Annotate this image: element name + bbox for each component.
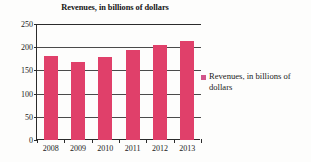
y-axis-tick-label: 100 bbox=[21, 89, 33, 98]
x-axis-tick-label: 2008 bbox=[43, 144, 59, 153]
x-tick-mark bbox=[146, 139, 147, 143]
x-tick-mark bbox=[64, 139, 65, 143]
x-tick-mark bbox=[174, 139, 175, 143]
x-axis-tick-label: 2012 bbox=[152, 144, 168, 153]
plot-area: 050100150200250 200820092010201120122013 bbox=[36, 24, 200, 140]
y-axis-tick-label: 200 bbox=[21, 43, 33, 52]
x-axis-tick-label: 2010 bbox=[97, 144, 113, 153]
bar-chart-figure: Revenues, in billions of dollars 0501001… bbox=[0, 0, 311, 162]
bars-group bbox=[37, 24, 201, 140]
bar-2011 bbox=[126, 50, 140, 140]
y-axis-tick-label: 0 bbox=[29, 136, 33, 145]
x-tick-mark bbox=[37, 139, 38, 143]
legend-color-swatch bbox=[201, 75, 206, 80]
bar-2009 bbox=[71, 62, 85, 140]
x-axis-tick-label: 2011 bbox=[125, 144, 141, 153]
chart-legend: Revenues, in billions of dollars bbox=[201, 71, 309, 93]
x-axis-tick-label: 2009 bbox=[70, 144, 86, 153]
bar-2012 bbox=[153, 45, 167, 140]
y-axis-tick-label: 50 bbox=[25, 112, 33, 121]
x-tick-mark bbox=[92, 139, 93, 143]
legend-entry-label: Revenues, in billions of dollars bbox=[209, 71, 304, 93]
y-axis-tick-label: 150 bbox=[21, 66, 33, 75]
bar-2008 bbox=[44, 56, 58, 140]
y-axis-tick-label: 250 bbox=[21, 20, 33, 29]
x-tick-mark bbox=[119, 139, 120, 143]
chart-title: Revenues, in billions of dollars bbox=[30, 3, 200, 12]
x-tick-mark bbox=[201, 139, 202, 143]
bar-2013 bbox=[180, 41, 194, 140]
bar-2010 bbox=[98, 57, 112, 140]
x-axis-tick-label: 2013 bbox=[179, 144, 195, 153]
